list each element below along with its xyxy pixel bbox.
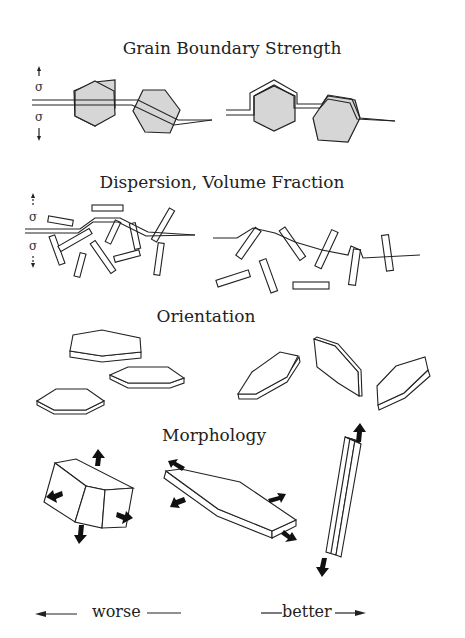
hexagonal-plate [110, 367, 184, 388]
quality-scale: worse better [35, 602, 366, 621]
force-arrow-icon [170, 497, 186, 508]
rod-particle [382, 235, 394, 272]
rod-particle [151, 208, 174, 242]
stress-indicator: σ σ [29, 193, 37, 268]
rod-particle [90, 241, 116, 274]
rod-particle [48, 216, 74, 226]
force-arrow-icon [353, 423, 366, 442]
orientation-better [238, 337, 430, 410]
sigma-bottom: σ [35, 110, 43, 124]
crack-path-lower [226, 85, 395, 121]
crack-path-lower [32, 105, 212, 125]
better-label: better [282, 602, 332, 621]
rod-particle [154, 243, 164, 276]
worse-indicator: worse [35, 602, 181, 621]
hexagonal-plate [37, 389, 104, 414]
rod-particle [74, 253, 86, 278]
force-arrow-icon [268, 493, 286, 503]
section-grain-boundary: Grain Boundary Strength σ σ [32, 38, 395, 142]
grain-particle [133, 90, 180, 133]
arrow-right-icon [355, 610, 366, 616]
section-morphology: Morphology [44, 423, 366, 577]
hexagonal-plate [314, 337, 362, 396]
stress-indicator: σ σ [35, 66, 43, 141]
rod-particle [216, 270, 250, 287]
arrowhead-icon [37, 66, 41, 71]
rod-particle [114, 250, 141, 263]
force-arrow-icon [92, 449, 105, 466]
rod-particle [259, 259, 277, 293]
orientation-worse [37, 330, 184, 414]
morphology-elongated-plate [164, 459, 297, 542]
grain-particle [313, 96, 360, 142]
force-arrow-icon [281, 530, 297, 542]
better-indicator: better [261, 602, 366, 621]
dispersion-worse [25, 205, 195, 277]
crack-path-upper [32, 100, 212, 120]
section-title-morphology: Morphology [162, 425, 266, 445]
section-title-grain-boundary: Grain Boundary Strength [123, 38, 342, 58]
sigma-bottom: σ [29, 239, 37, 253]
section-orientation: Orientation [37, 306, 430, 414]
hexagonal-plate [238, 352, 300, 399]
rod-particle [236, 227, 261, 259]
diagram-canvas: Grain Boundary Strength σ σ Dispers [0, 0, 465, 638]
section-title-dispersion: Dispersion, Volume Fraction [100, 172, 345, 192]
hexagonal-plate [377, 357, 430, 410]
arrowhead-icon [31, 193, 35, 198]
sigma-top: σ [35, 80, 43, 94]
hexagonal-plate [70, 330, 141, 362]
grain-boundary-better [226, 80, 395, 142]
dispersion-better [213, 227, 420, 293]
worse-label: worse [92, 602, 141, 621]
rod-particle [293, 282, 329, 289]
rod-particle [349, 249, 361, 286]
arrow-left-icon [35, 611, 46, 617]
morphology-fiber [316, 423, 366, 577]
section-title-orientation: Orientation [157, 306, 256, 326]
rod-particle [58, 228, 92, 251]
grain-particle [75, 81, 115, 126]
sigma-top: σ [29, 210, 37, 224]
rod-particle [92, 205, 123, 211]
rod-particle [129, 223, 140, 250]
grain-boundary-worse [32, 80, 212, 133]
force-arrow-icon [74, 525, 87, 544]
rod-particle [105, 220, 121, 244]
section-dispersion: Dispersion, Volume Fraction σ σ [25, 172, 420, 293]
force-arrow-icon [316, 558, 329, 577]
morphology-blocky-crystal [44, 449, 133, 544]
